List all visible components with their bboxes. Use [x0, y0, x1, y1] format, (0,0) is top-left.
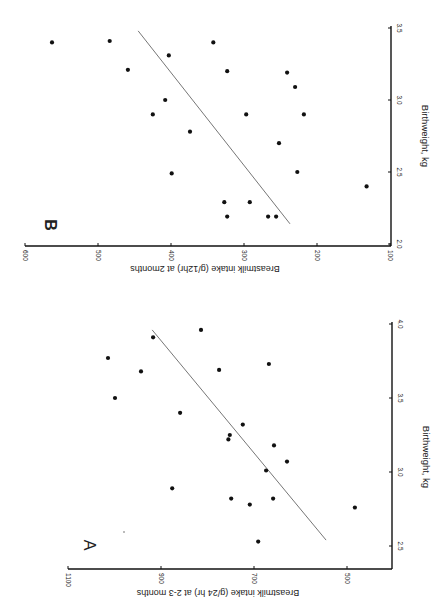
- panel-b: 100200300400500600 2.02.53.03.5 B Breast…: [22, 23, 431, 274]
- data-point: [271, 497, 275, 501]
- data-point: [170, 171, 174, 175]
- tick-label: 3.0: [396, 95, 403, 104]
- data-point: [211, 40, 215, 44]
- data-point: [365, 184, 369, 188]
- data-point: [266, 215, 270, 219]
- tick-label: 2.0: [396, 239, 403, 248]
- data-point: [151, 112, 155, 116]
- data-point: [50, 40, 54, 44]
- tick-label: 100: [387, 250, 394, 261]
- data-point: [248, 200, 252, 204]
- tick-label: 600: [22, 250, 29, 261]
- panel-a-regression-line: [152, 330, 326, 540]
- data-point: [302, 112, 306, 116]
- data-point: [178, 411, 182, 415]
- data-point: [163, 98, 167, 102]
- data-point: [167, 53, 171, 57]
- tick-label: 2.5: [397, 541, 404, 550]
- panel-a-xlabel: Birthweight, kg: [421, 426, 432, 488]
- data-point: [272, 443, 276, 447]
- panel-a-label: A: [81, 540, 98, 551]
- panel-b-xlabel: Birthweight, kg: [420, 105, 431, 167]
- panel-a: 5007009001100 2.53.03.54.0 A Breastmilk …: [65, 319, 432, 598]
- data-point: [139, 369, 143, 373]
- tick-label: 400: [168, 250, 175, 261]
- data-point: [229, 497, 233, 501]
- data-point: [108, 39, 112, 43]
- data-point: [248, 503, 252, 507]
- panel-b-regression-line: [138, 31, 290, 224]
- figure: 100200300400500600 2.02.53.03.5 B Breast…: [0, 0, 437, 614]
- tick-label: 900: [158, 573, 165, 584]
- data-point: [293, 85, 297, 89]
- data-point: [225, 215, 229, 219]
- panel-a-ylabel: Breastmilk intake (g/24 hr) at 2-3 month…: [136, 588, 299, 598]
- data-point: [267, 362, 271, 366]
- stray-dot: [123, 531, 124, 532]
- data-point: [277, 141, 281, 145]
- data-point: [228, 433, 232, 437]
- data-point: [151, 335, 155, 339]
- data-point: [199, 328, 203, 332]
- panel-b-birthweight-ticks: 2.02.53.03.5: [388, 23, 403, 248]
- data-point: [274, 215, 278, 219]
- tick-label: 500: [344, 573, 351, 584]
- data-point: [126, 68, 130, 72]
- data-point: [295, 170, 299, 174]
- panel-a-points: [106, 328, 357, 544]
- data-point: [188, 130, 192, 134]
- tick-label: 3.0: [397, 467, 404, 476]
- data-point: [256, 540, 260, 544]
- data-point: [225, 69, 229, 73]
- tick-label: 4.0: [397, 319, 404, 328]
- data-point: [217, 368, 221, 372]
- data-point: [285, 460, 289, 464]
- data-point: [244, 112, 248, 116]
- tick-label: 500: [95, 250, 102, 261]
- panel-b-ylabel: Breastmilk intake (g/12hr) at 2months: [130, 264, 280, 274]
- data-point: [285, 71, 289, 75]
- tick-label: 700: [251, 573, 258, 584]
- data-point: [222, 200, 226, 204]
- panel-b-label: B: [42, 219, 59, 231]
- data-point: [106, 356, 110, 360]
- data-point: [353, 505, 357, 509]
- data-point: [226, 437, 230, 441]
- data-point: [170, 486, 174, 490]
- tick-label: 300: [241, 250, 248, 261]
- panel-b-points: [50, 39, 369, 219]
- data-point: [113, 396, 117, 400]
- data-point: [241, 423, 245, 427]
- data-point: [264, 468, 268, 472]
- tick-label: 1100: [65, 573, 72, 587]
- tick-label: 200: [314, 250, 321, 261]
- panel-a-birthweight-ticks: 2.53.03.54.0: [389, 319, 404, 550]
- tick-label: 3.5: [396, 23, 403, 32]
- tick-label: 3.5: [397, 393, 404, 402]
- tick-label: 2.5: [396, 167, 403, 176]
